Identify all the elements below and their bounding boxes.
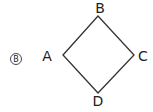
vertex-label-d: D [93,93,104,109]
square-abcd [63,16,134,93]
option-label: B [13,55,19,64]
vertex-label-a: A [42,48,52,64]
vertex-label-c: C [138,48,148,64]
option-marker: B [11,54,22,65]
diagram-canvas: B A B C D [0,0,153,112]
vertex-label-b: B [95,0,105,16]
